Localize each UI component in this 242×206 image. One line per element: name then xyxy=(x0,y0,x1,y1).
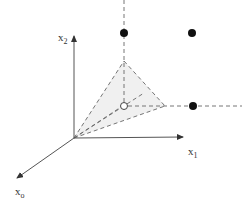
x1-axis xyxy=(74,137,183,138)
open-circle-center xyxy=(121,103,128,110)
diagram-canvas: x2 x1 xo xyxy=(0,0,242,206)
x2-label: x2 xyxy=(58,31,68,46)
filled-dot-top-vertical xyxy=(120,29,128,37)
filled-dot-right-horizontal xyxy=(189,102,197,110)
x1-label: x1 xyxy=(188,145,198,160)
x0-axis xyxy=(17,138,74,178)
filled-dot-top-right xyxy=(188,29,196,37)
x0-label: xo xyxy=(15,185,25,200)
